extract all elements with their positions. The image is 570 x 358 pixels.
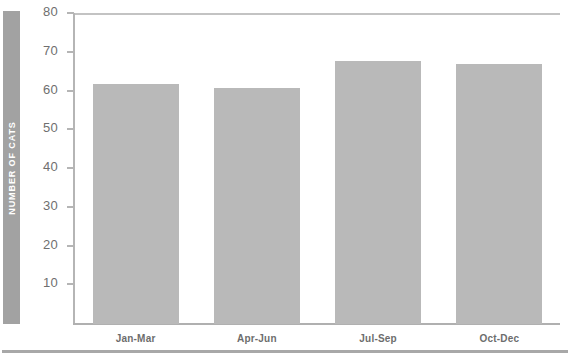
y-axis-tick <box>67 128 74 130</box>
bar <box>214 88 300 324</box>
y-axis-tick <box>67 51 74 53</box>
y-axis-tick-label: 10 <box>28 275 58 290</box>
y-axis-tick-label: 80 <box>28 4 58 19</box>
y-axis-tick-label: 30 <box>28 198 58 213</box>
y-axis-tick <box>67 167 74 169</box>
y-axis-tick-label: 60 <box>28 82 58 97</box>
y-axis-tick-label: 20 <box>28 237 58 252</box>
bar <box>456 64 542 324</box>
x-axis-label: Jul-Sep <box>328 333 428 344</box>
chart-figure: NUMBER OF CATS 1020304050607080 Jan-MarA… <box>0 0 570 358</box>
x-axis-label: Jan-Mar <box>86 333 186 344</box>
x-axis-label: Oct-Dec <box>449 333 549 344</box>
cropped-header-text <box>188 0 560 2</box>
y-axis-tick-label: 40 <box>28 159 58 174</box>
bar <box>335 61 421 325</box>
y-axis-title-band: NUMBER OF CATS <box>3 11 20 324</box>
y-axis-tick <box>67 206 74 208</box>
y-axis-tick <box>67 90 74 92</box>
y-axis-tick <box>67 283 74 285</box>
y-axis-tick-label: 50 <box>28 120 58 135</box>
bottom-rule <box>2 350 568 353</box>
y-axis-tick-label: 70 <box>28 43 58 58</box>
y-axis-tick <box>67 12 74 14</box>
bars-layer <box>75 13 560 324</box>
x-axis-label: Apr-Jun <box>207 333 307 344</box>
y-axis-tick <box>67 245 74 247</box>
y-axis-title: NUMBER OF CATS <box>7 121 17 214</box>
bar <box>93 84 179 324</box>
